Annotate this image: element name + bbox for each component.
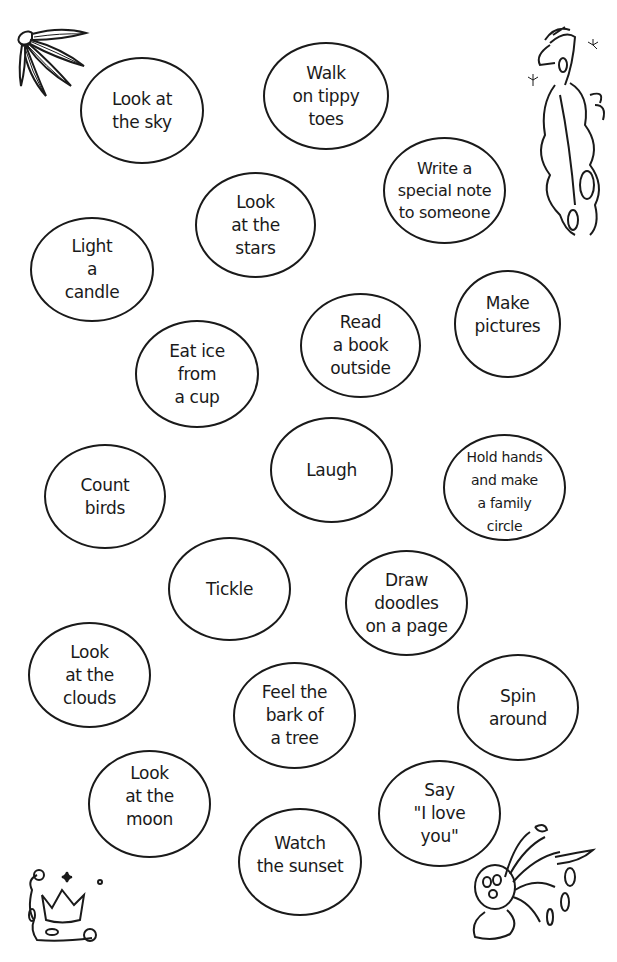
activity-bubble: Say "I love you" <box>378 760 501 867</box>
flower-icon <box>16 28 91 100</box>
activity-label: Hold hands and make a family circle <box>467 446 543 538</box>
activity-label: Eat ice from a cup <box>169 340 225 409</box>
activity-bubble: Tickle <box>168 537 291 641</box>
activity-label: Feel the bark of a tree <box>262 681 327 750</box>
activity-label: Look at the stars <box>231 191 280 260</box>
activity-label: Spin around <box>489 685 547 731</box>
activity-label: Make pictures <box>475 292 541 338</box>
activity-bubble: Hold hands and make a family circle <box>443 434 566 541</box>
activity-bubble: Look at the stars <box>195 172 316 278</box>
activity-bubble: Spin around <box>457 654 579 761</box>
activity-label: Light a candle <box>65 235 120 304</box>
activity-bubble: Draw doodles on a page <box>345 550 468 656</box>
activity-label: Tickle <box>206 578 253 601</box>
activity-bubble: Count birds <box>44 444 166 549</box>
activity-bubble: Eat ice from a cup <box>135 320 259 428</box>
activity-bubble: Look at the clouds <box>28 622 151 728</box>
activity-bubble: Make pictures <box>454 270 561 378</box>
activity-label: Watch the sunset <box>257 832 344 878</box>
activity-bubble: Read a book outside <box>300 293 421 398</box>
activity-label: Walk on tippy toes <box>292 62 359 131</box>
crown-icon <box>22 860 107 945</box>
activity-bubble: Walk on tippy toes <box>263 42 389 150</box>
bird-icon <box>515 25 610 245</box>
activity-label: Laugh <box>306 459 357 482</box>
activity-bubble: Look at the sky <box>80 57 204 164</box>
activity-bubble: Write a special note to someone <box>383 137 506 244</box>
activity-label: Look at the moon <box>125 762 174 831</box>
activity-bubble: Watch the sunset <box>238 808 362 916</box>
activity-label: Say "I love you" <box>414 779 466 848</box>
activity-bubble: Light a candle <box>30 217 154 322</box>
activity-label: Look at the sky <box>112 88 172 134</box>
activity-label: Read a book outside <box>330 311 391 380</box>
activity-label: Count birds <box>81 474 130 520</box>
activity-label: Draw doodles on a page <box>365 569 447 638</box>
activity-bubble: Look at the moon <box>88 750 211 858</box>
activity-bubble: Feel the bark of a tree <box>233 662 356 769</box>
activity-label: Write a special note to someone <box>398 158 491 224</box>
activity-bubble: Laugh <box>270 417 393 523</box>
activity-label: Look at the clouds <box>63 641 116 710</box>
